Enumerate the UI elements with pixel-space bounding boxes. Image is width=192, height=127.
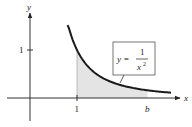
- y-axis-label: y: [26, 2, 31, 12]
- eq-lhs: y =: [116, 54, 129, 64]
- x-axis-label: x: [183, 93, 188, 103]
- y-tick-label-1: 1: [19, 45, 24, 55]
- graph: y x 1 1 b y = 1 x 2: [0, 0, 192, 127]
- equation-label: y = 1 x 2: [113, 42, 155, 83]
- eq-denominator: x: [136, 62, 141, 72]
- eq-exponent: 2: [143, 61, 146, 67]
- b-label: b: [145, 104, 150, 114]
- eq-numerator: 1: [140, 47, 145, 57]
- x-tick-label-1: 1: [75, 104, 80, 114]
- leader-line: [120, 75, 124, 83]
